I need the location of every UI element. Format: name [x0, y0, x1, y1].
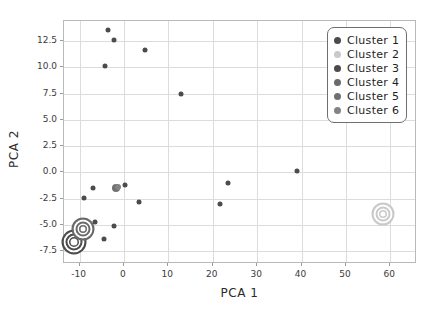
legend-item-label: Cluster 6: [347, 104, 399, 117]
y-tick-label: 10.0: [17, 61, 57, 71]
legend-marker-icon: [334, 37, 341, 44]
y-tick-label: -5.0: [17, 219, 57, 229]
y-tick-mark: [60, 119, 63, 120]
legend-item-3[interactable]: Cluster 3: [334, 61, 399, 75]
x-tick-mark: [389, 263, 390, 266]
legend-marker-icon: [334, 93, 341, 100]
data-point: [71, 218, 94, 241]
legend-item-5[interactable]: Cluster 5: [334, 89, 399, 103]
data-point: [217, 202, 222, 207]
y-tick-mark: [60, 171, 63, 172]
y-tick-mark: [60, 40, 63, 41]
legend-item-2[interactable]: Cluster 2: [334, 47, 399, 61]
legend-item-6[interactable]: Cluster 6: [334, 103, 399, 117]
data-point: [295, 169, 300, 174]
x-axis-label: PCA 1: [63, 286, 416, 300]
x-tick-mark: [256, 263, 257, 266]
y-tick-mark: [60, 250, 63, 251]
gridline-horizontal: [64, 172, 415, 173]
legend-item-label: Cluster 3: [347, 62, 399, 75]
data-point: [142, 48, 147, 53]
x-tick-label: 40: [295, 269, 306, 279]
y-tick-mark: [60, 93, 63, 94]
legend-item-1[interactable]: Cluster 1: [334, 33, 399, 47]
data-point: [115, 184, 121, 190]
data-point: [226, 181, 231, 186]
y-tick-label: 5.0: [17, 114, 57, 124]
x-tick-mark: [123, 263, 124, 266]
legend-item-label: Cluster 1: [347, 34, 399, 47]
data-point: [81, 195, 86, 200]
y-tick-label: -7.5: [17, 245, 57, 255]
scatter-plot-figure: -100102030405060 12.510.07.55.02.50.0-2.…: [0, 0, 430, 310]
gridline-horizontal: [64, 199, 415, 200]
x-tick-label: 0: [120, 269, 126, 279]
legend-marker-icon: [334, 51, 341, 58]
x-tick-mark: [345, 263, 346, 266]
y-tick-label: 12.5: [17, 35, 57, 45]
data-point: [105, 28, 110, 33]
x-tick-mark: [79, 263, 80, 266]
data-point: [102, 236, 107, 241]
y-tick-label: -2.5: [17, 193, 57, 203]
data-point: [111, 37, 116, 42]
y-tick-mark: [60, 198, 63, 199]
x-tick-label: 50: [339, 269, 350, 279]
x-tick-label: 30: [250, 269, 261, 279]
y-tick-label: 2.5: [17, 140, 57, 150]
y-tick-mark: [60, 224, 63, 225]
y-tick-label: 7.5: [17, 88, 57, 98]
data-point: [103, 64, 108, 69]
gridline-horizontal: [64, 146, 415, 147]
legend-marker-icon: [334, 79, 341, 86]
data-point: [371, 202, 394, 225]
x-tick-label: 60: [384, 269, 395, 279]
x-tick-label: 20: [206, 269, 217, 279]
y-axis-label: PCA 2: [7, 109, 21, 189]
x-tick-mark: [167, 263, 168, 266]
y-tick-mark: [60, 145, 63, 146]
data-point: [112, 224, 117, 229]
x-tick-label: 10: [162, 269, 173, 279]
data-point: [91, 186, 96, 191]
legend-item-label: Cluster 4: [347, 76, 399, 89]
data-point: [122, 183, 127, 188]
x-tick-mark: [301, 263, 302, 266]
data-point: [136, 199, 141, 204]
legend-item-label: Cluster 2: [347, 48, 399, 61]
legend-item-4[interactable]: Cluster 4: [334, 75, 399, 89]
legend-marker-icon: [334, 107, 341, 114]
gridline-horizontal: [64, 251, 415, 252]
legend-item-label: Cluster 5: [347, 90, 399, 103]
legend-box[interactable]: Cluster 1Cluster 2Cluster 3Cluster 4Clus…: [327, 27, 407, 123]
legend-marker-icon: [334, 65, 341, 72]
x-tick-label: -10: [71, 269, 86, 279]
y-tick-mark: [60, 66, 63, 67]
x-tick-mark: [212, 263, 213, 266]
data-point: [179, 91, 184, 96]
y-tick-label: 0.0: [17, 166, 57, 176]
